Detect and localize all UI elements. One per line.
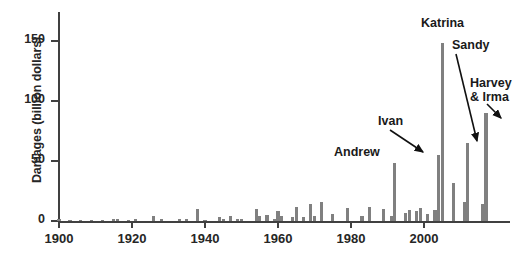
arrow-harvey-irma [487,104,501,118]
annotation-sandy: Sandy [452,38,490,52]
annotation-harvey-line1: Harvey [470,76,515,90]
annotation-andrew: Andrew [334,145,380,159]
arrow-ivan [390,130,423,152]
annotation-arrows [0,0,515,260]
annotation-harvey-line2: & Irma [470,90,515,104]
hurricane-damages-bar-chart: Damages (billion dollars) 150100500 1900… [0,0,515,260]
annotation-katrina: Katrina [421,16,464,30]
annotation-ivan: Ivan [378,114,403,128]
annotation-harvey-irma: Harvey & Irma [470,76,515,104]
